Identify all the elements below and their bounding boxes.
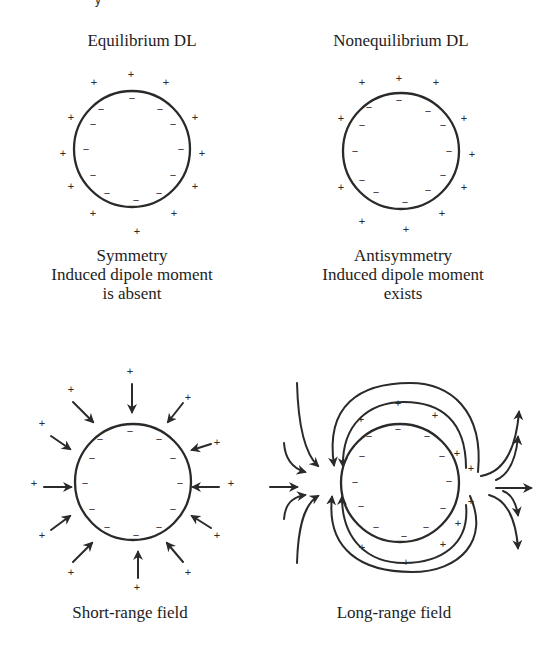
svg-text:−: −: [104, 187, 110, 199]
svg-text:−: −: [425, 105, 431, 117]
long-range-panel: − − − − − − − − − − − − + + + + + + + + …: [270, 383, 531, 572]
svg-text:+: +: [439, 207, 445, 219]
svg-text:+: +: [91, 76, 97, 88]
svg-text:−: −: [440, 502, 446, 514]
negative-charges: − − − − − − − − − − − −: [83, 92, 184, 206]
caption-line: Induced dipole moment: [313, 265, 493, 284]
svg-text:+: +: [192, 180, 198, 192]
svg-text:−: −: [157, 103, 163, 115]
svg-text:−: −: [156, 433, 162, 445]
svg-text:+: +: [461, 112, 467, 124]
svg-text:−: −: [373, 186, 379, 198]
inward-field-arrows: [44, 384, 219, 578]
negative-charges: − − − − − − − − − − − −: [352, 94, 452, 208]
particle-circle: [341, 424, 459, 542]
svg-text:+: +: [455, 517, 461, 529]
svg-text:−: −: [439, 450, 445, 462]
svg-text:+: +: [396, 72, 402, 84]
svg-text:−: −: [425, 184, 431, 196]
svg-text:+: +: [338, 181, 344, 193]
svg-text:−: −: [170, 169, 176, 181]
svg-text:−: −: [90, 118, 96, 130]
svg-text:+: +: [214, 436, 220, 448]
svg-text:+: +: [68, 180, 74, 192]
caption-line: Induced dipole moment: [42, 265, 222, 284]
svg-text:−: −: [358, 500, 364, 512]
svg-text:+: +: [185, 566, 191, 578]
svg-text:−: −: [359, 119, 365, 131]
svg-text:+: +: [468, 495, 474, 507]
caption-line: Antisymmetry: [313, 246, 493, 265]
svg-text:+: +: [39, 417, 45, 429]
outgoing-field-lines: [481, 412, 531, 548]
double-layer-diagram: y − − − − − − − − − − − − + + + + + + + …: [0, 0, 557, 649]
svg-text:+: +: [39, 529, 45, 541]
svg-text:−: −: [178, 143, 184, 155]
svg-text:−: −: [170, 118, 176, 130]
svg-text:−: −: [170, 503, 176, 515]
particle-circle: [343, 93, 459, 209]
svg-text:−: −: [446, 145, 452, 157]
svg-text:−: −: [396, 94, 402, 106]
svg-text:+: +: [68, 566, 74, 578]
svg-text:+: +: [461, 181, 467, 193]
svg-text:−: −: [352, 476, 358, 488]
svg-text:+: +: [454, 447, 460, 459]
svg-text:+: +: [403, 556, 409, 568]
svg-text:+: +: [395, 397, 401, 409]
svg-text:+: +: [171, 207, 177, 219]
svg-text:+: +: [90, 207, 96, 219]
caption-line: exists: [313, 284, 493, 303]
nonequilibrium-panel: − − − − − − − − − − − − + + + + + + + + …: [338, 72, 475, 235]
top-fragment: y: [95, 0, 101, 7]
svg-text:−: −: [366, 430, 372, 442]
svg-text:−: −: [156, 521, 162, 533]
caption-short-range: Short-range field: [40, 603, 220, 622]
short-range-panel: − − − − − − − − − − − − + + + + + + + + …: [31, 365, 234, 593]
svg-text:−: −: [373, 521, 379, 533]
particle-circle: [74, 91, 190, 207]
positive-charges: + + + + + + + + + + +: [338, 72, 475, 235]
svg-text:+: +: [134, 225, 140, 237]
svg-text:−: −: [83, 143, 89, 155]
svg-text:+: +: [127, 365, 133, 377]
panel-title-nonequilibrium: Nonequilibrium DL: [311, 31, 491, 50]
particle-circle: [75, 424, 191, 540]
svg-text:−: −: [440, 169, 446, 181]
svg-text:+: +: [214, 529, 220, 541]
svg-text:+: +: [440, 538, 446, 550]
svg-text:−: −: [133, 529, 139, 541]
svg-text:+: +: [433, 76, 439, 88]
caption-long-range: Long-range field: [304, 603, 484, 622]
svg-text:+: +: [359, 76, 365, 88]
incoming-field-lines: [270, 383, 318, 563]
svg-text:+: +: [68, 383, 74, 395]
svg-text:−: −: [366, 101, 372, 113]
svg-text:+: +: [128, 68, 134, 80]
svg-text:+: +: [358, 413, 364, 425]
svg-text:−: −: [97, 433, 103, 445]
negative-charges: − − − − − − − − − − − −: [82, 425, 183, 541]
caption-line: Symmetry: [42, 246, 222, 265]
svg-text:+: +: [31, 477, 37, 489]
svg-text:−: −: [170, 452, 176, 464]
svg-text:−: −: [359, 174, 365, 186]
svg-text:−: −: [98, 103, 104, 115]
svg-text:−: −: [440, 119, 446, 131]
svg-text:−: −: [423, 521, 429, 533]
svg-text:+: +: [359, 541, 365, 553]
negative-charges: − − − − − − − − − − − −: [352, 423, 452, 542]
caption-line: is absent: [42, 284, 222, 303]
svg-text:−: −: [401, 530, 407, 542]
svg-text:−: −: [89, 452, 95, 464]
svg-text:−: −: [177, 477, 183, 489]
svg-text:−: −: [424, 430, 430, 442]
svg-text:+: +: [432, 409, 438, 421]
svg-text:+: +: [468, 462, 474, 474]
svg-text:−: −: [89, 503, 95, 515]
svg-text:−: −: [82, 477, 88, 489]
svg-text:+: +: [199, 147, 205, 159]
svg-text:+: +: [403, 223, 409, 235]
svg-text:−: −: [129, 92, 135, 104]
panel-title-equilibrium: Equilibrium DL: [52, 31, 232, 50]
